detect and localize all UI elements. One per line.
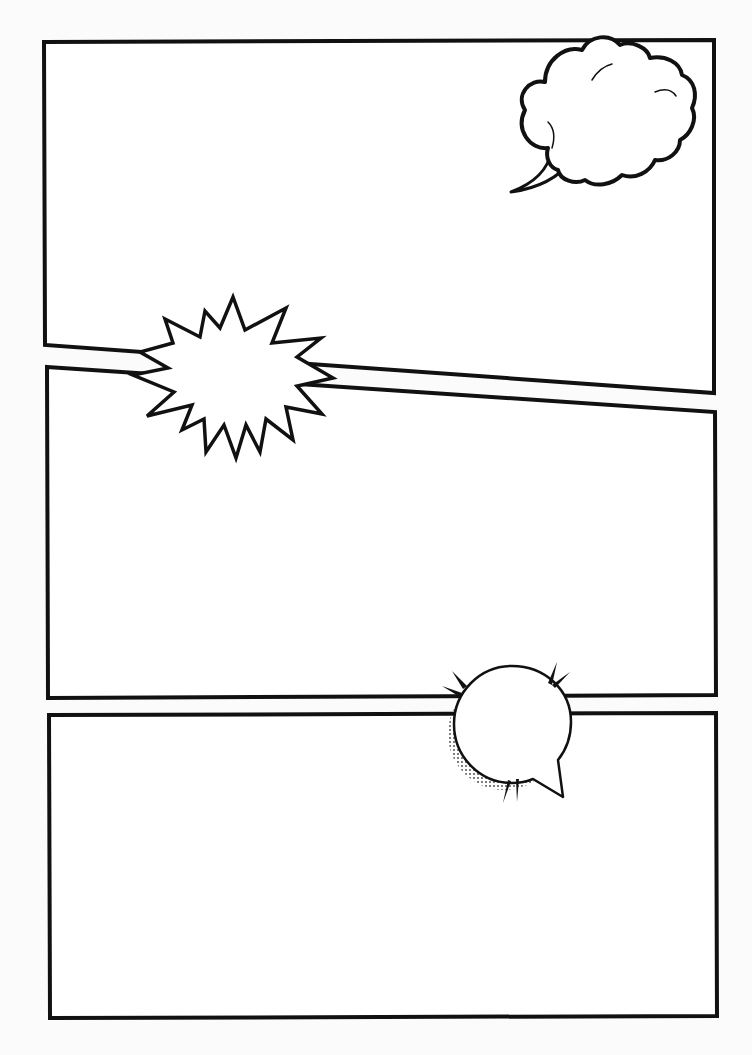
panel-3-frame — [49, 713, 717, 1018]
comic-page — [0, 0, 752, 1055]
comic-page-canvas — [0, 0, 752, 1055]
panel-3 — [49, 713, 717, 1018]
